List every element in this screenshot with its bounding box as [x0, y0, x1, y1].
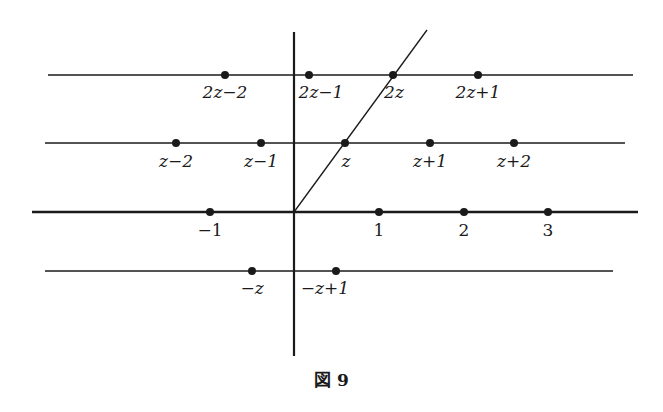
diagonal-line	[294, 30, 427, 212]
point-2z	[389, 71, 397, 79]
label-z-plus-2: z+2	[496, 151, 531, 171]
point-1	[375, 208, 383, 216]
point-3	[544, 208, 552, 216]
point-2	[460, 208, 468, 216]
point-z-plus-2	[510, 139, 518, 147]
point-z-minus-1	[257, 139, 265, 147]
lattice-diagram: 2z−2 2z−1 2z 2z+1 z−2 z−1 z z+1 z+2 −1 1…	[0, 0, 663, 412]
point-z	[341, 139, 349, 147]
figure-caption: 図 9	[0, 366, 663, 391]
point-minus-1	[206, 208, 214, 216]
label-z-minus-1: z−1	[243, 151, 278, 171]
point-minus-z-plus-1	[332, 267, 340, 275]
point-2z-plus-1	[474, 71, 482, 79]
label-2z-plus-1: 2z+1	[455, 82, 501, 102]
label-z: z	[341, 151, 352, 171]
label-2z-minus-1: 2z−1	[298, 82, 344, 102]
label-2z: 2z	[383, 82, 405, 102]
label-minus-z: −z	[240, 278, 264, 298]
label-2: 2	[459, 220, 470, 240]
label-1: 1	[374, 220, 385, 240]
label-2z-minus-2: 2z−2	[202, 82, 248, 102]
label-z-minus-2: z−2	[158, 151, 193, 171]
point-minus-z	[248, 267, 256, 275]
point-2z-minus-1	[305, 71, 313, 79]
point-z-plus-1	[426, 139, 434, 147]
point-2z-minus-2	[221, 71, 229, 79]
label-z-plus-1: z+1	[412, 151, 447, 171]
point-z-minus-2	[172, 139, 180, 147]
label-minus-1: −1	[197, 220, 222, 240]
point-labels: 2z−2 2z−1 2z 2z+1 z−2 z−1 z z+1 z+2 −1 1…	[158, 82, 553, 298]
label-minus-z-plus-1: −z+1	[301, 278, 349, 298]
label-3: 3	[543, 220, 554, 240]
